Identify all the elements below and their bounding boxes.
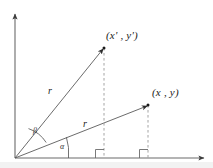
bottom-edge-band [0,162,213,168]
original-point-dot [147,104,150,107]
angle-label-beta: β [33,127,37,135]
ray-to-rotated-point [15,49,103,158]
radius-label-rotated: r [48,86,52,96]
right-angle-marker-rotated [96,150,105,159]
radius-label-original: r [83,119,87,129]
rotated-point-label: (x' , y') [106,30,138,41]
rotation-diagram-figure: (x' , y') (x , y) r r β α [0,0,213,168]
right-angle-marker-original [140,150,149,159]
angle-label-alpha: α [60,143,64,151]
rotated-point-dot [103,47,106,50]
original-point-label: (x , y) [152,87,179,98]
angle-arc-alpha [66,137,68,158]
diagram-canvas [0,0,213,168]
